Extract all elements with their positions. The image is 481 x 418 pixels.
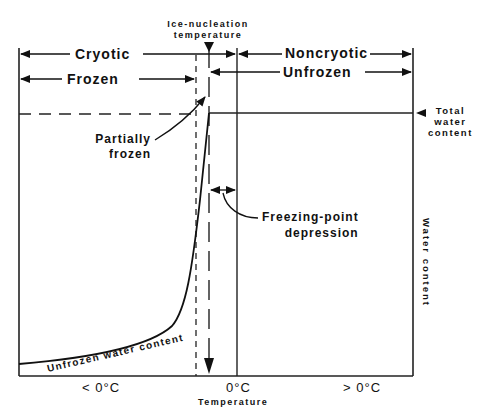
x-tick-above-zero: > 0°C (343, 380, 381, 395)
unfrozen-water-content-label: Unfrozen water content (46, 332, 185, 374)
ice-nucleation-pointer-icon (204, 42, 214, 52)
freezing-point-depression-label: Freezing-point depression (262, 209, 359, 241)
total-water-content-label: Total water content (428, 105, 473, 138)
total-water-line2: water (428, 116, 473, 127)
ice-nucleation-down-arrow-icon (204, 358, 214, 374)
freezing-point-line1: Freezing-point (262, 209, 359, 225)
diagram-canvas: Unfrozen water content (0, 0, 481, 418)
total-water-pointer-icon (416, 109, 426, 117)
freezing-point-leader-line (223, 193, 258, 218)
x-axis-label: Temperature (198, 397, 268, 407)
partially-frozen-line2: frozen (87, 147, 151, 162)
total-water-line1: Total (428, 105, 473, 116)
total-water-line3: content (428, 127, 473, 138)
x-tick-zero: 0°C (226, 380, 251, 395)
partially-frozen-label: Partially frozen (87, 132, 151, 162)
frozen-label: Frozen (67, 71, 119, 87)
ice-nucleation-line2: temperature (158, 30, 258, 41)
partially-frozen-leader-arrow (155, 97, 205, 140)
ice-nucleation-annotation: Ice-nucleation temperature (158, 19, 258, 41)
cryotic-label: Cryotic (75, 46, 130, 62)
x-tick-below-zero: < 0°C (82, 380, 120, 395)
unfrozen-label: Unfrozen (283, 64, 352, 80)
partially-frozen-line1: Partially (87, 132, 151, 147)
freezing-point-line2: depression (262, 225, 359, 241)
noncryotic-label: Noncryotic (285, 45, 368, 61)
y-axis-label: Water content (421, 218, 432, 307)
ice-nucleation-line1: Ice-nucleation (158, 19, 258, 30)
